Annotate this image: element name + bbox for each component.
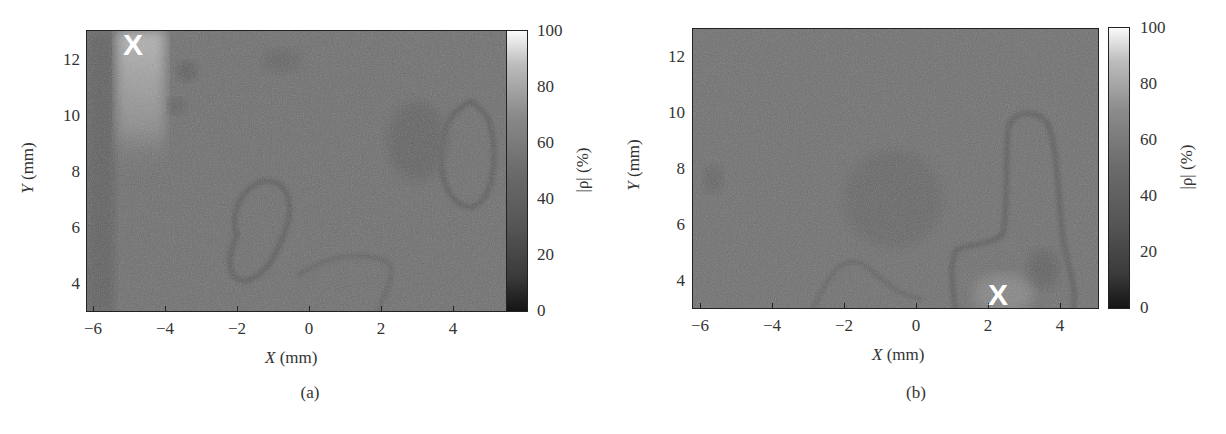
- y-tick-10: 10: [655, 104, 685, 121]
- y-tick-6: 6: [655, 216, 685, 233]
- cbar-tick-0: 0: [1140, 299, 1180, 316]
- x-axis-unit: (mm): [882, 345, 924, 364]
- x-tick--6: −6: [680, 317, 720, 334]
- x-axis-label: X (mm): [872, 345, 924, 365]
- y-tick-12: 12: [655, 48, 685, 65]
- y-axis-label: Y (mm): [624, 139, 644, 191]
- heatmap-image-b: [693, 29, 1099, 309]
- y-tick-4: 4: [655, 272, 685, 289]
- panel-b: 12 10 8 6 4 −6 −4 −2 0 2 4 X (mm) Y (mm)…: [0, 0, 1226, 434]
- x-tickmark: [1060, 303, 1061, 308]
- cbar-tick-100: 100: [1140, 19, 1180, 36]
- heatmap-b: [692, 28, 1099, 309]
- cbar-tick-80: 80: [1140, 75, 1180, 92]
- peak-marker-b: X: [988, 280, 1008, 310]
- x-axis-var: X: [872, 345, 882, 364]
- y-axis-var: Y: [624, 181, 643, 190]
- x-tick-0: 0: [896, 317, 936, 334]
- x-tick-4: 4: [1040, 317, 1080, 334]
- y-tick-8: 8: [655, 160, 685, 177]
- y-axis-unit: (mm): [624, 139, 643, 181]
- x-tickmark: [700, 303, 701, 308]
- colorbar-b: [1108, 27, 1130, 309]
- cbar-tick-40: 40: [1140, 187, 1180, 204]
- x-tick-2: 2: [968, 317, 1008, 334]
- x-tick--4: −4: [752, 317, 792, 334]
- x-tickmark: [772, 303, 773, 308]
- cbar-tick-20: 20: [1140, 243, 1180, 260]
- x-tickmark: [916, 303, 917, 308]
- panel-label-b: (b): [886, 383, 946, 403]
- x-tick--2: −2: [824, 317, 864, 334]
- cbar-tick-60: 60: [1140, 131, 1180, 148]
- x-tickmark: [844, 303, 845, 308]
- colorbar-label-b: |ρ| (%): [1177, 144, 1197, 189]
